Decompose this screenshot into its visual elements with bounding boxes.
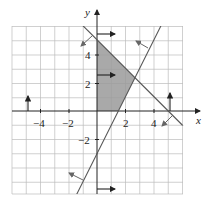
y-tick-2: 2 (85, 78, 91, 90)
inequality-graph: y x −4 −2 2 4 4 2 −2 (0, 0, 212, 201)
y-tick-4: 4 (85, 49, 91, 61)
x-tick-m4: −4 (33, 117, 45, 129)
x-tick-2: 2 (123, 117, 129, 129)
x-axis-label: x (195, 114, 201, 126)
y-axis-label: y (84, 6, 90, 18)
x-tick-m2: −2 (62, 117, 74, 129)
y-tick-m2: −2 (78, 134, 90, 146)
x-tick-4: 4 (151, 117, 157, 129)
